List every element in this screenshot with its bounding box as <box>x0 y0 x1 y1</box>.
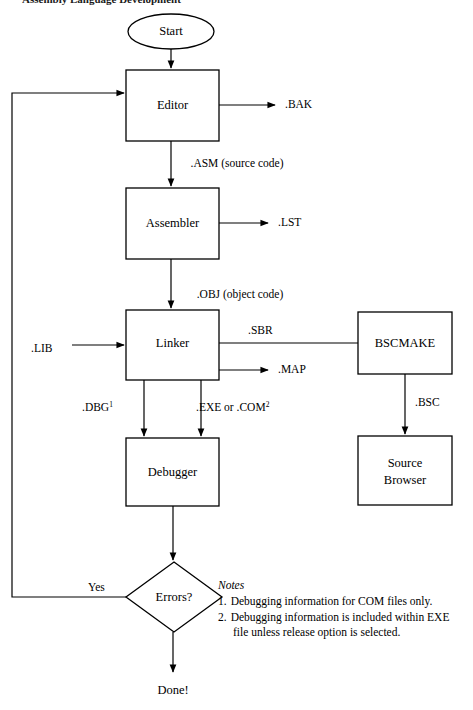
label-dbg: .DBG1 <box>82 400 113 413</box>
label-exe-com-superscript: 2 <box>266 400 270 409</box>
notes-item-1-line-1: Debugging information for COM files only… <box>231 595 433 608</box>
label-exe-com: .EXE or .COM2 <box>196 400 270 413</box>
start-label: Start <box>159 24 183 38</box>
notes-item-2-number: 2. <box>218 611 227 623</box>
done-label: Done! <box>157 683 188 697</box>
node-source-browser[interactable]: Source Browser <box>358 436 452 505</box>
node-errors-decision[interactable]: Errors? <box>126 562 222 632</box>
label-dbg-text: .DBG <box>82 401 109 413</box>
source-browser-label-line-1: Source <box>388 456 423 470</box>
label-dbg-superscript: 1 <box>109 400 113 409</box>
notes-item-2: 2.Debugging information is included with… <box>218 611 449 624</box>
label-bak: .BAK <box>285 98 313 110</box>
flowchart-page: Assembly Language Development <box>0 0 473 710</box>
source-browser-label-line-2: Browser <box>384 473 427 487</box>
notes-item-2-line-1: Debugging information is included within… <box>231 611 450 624</box>
node-editor[interactable]: Editor <box>126 70 219 141</box>
label-sbr: .SBR <box>248 324 273 336</box>
notes-heading: Notes <box>217 579 245 591</box>
label-asm: .ASM (source code) <box>191 157 284 170</box>
assembler-label: Assembler <box>146 216 200 230</box>
label-lib: .LIB <box>31 342 53 354</box>
notes-item-2-line-2: file unless release option is selected. <box>233 626 400 639</box>
node-linker[interactable]: Linker <box>126 310 219 380</box>
label-exe-com-text: .EXE or .COM <box>196 401 266 413</box>
label-obj: .OBJ (object code) <box>197 288 284 301</box>
node-start[interactable]: Start <box>128 14 214 49</box>
debugger-label: Debugger <box>148 465 198 479</box>
editor-label: Editor <box>157 98 189 112</box>
notes-item-1-number: 1. <box>218 595 227 607</box>
label-lst: .LST <box>278 216 301 228</box>
bscmake-label: BSCMAKE <box>375 336 436 350</box>
node-debugger[interactable]: Debugger <box>126 438 219 506</box>
label-yes: Yes <box>88 581 105 593</box>
notes-item-1: 1.Debugging information for COM files on… <box>218 595 433 608</box>
source-browser-box-shape <box>358 436 452 505</box>
notes-block: Notes 1.Debugging information for COM fi… <box>217 579 449 639</box>
errors-label: Errors? <box>156 590 193 604</box>
flowchart-canvas: Start Editor Assembler Linker BSCMAKE De <box>0 0 473 710</box>
linker-label: Linker <box>156 336 190 350</box>
node-assembler[interactable]: Assembler <box>126 188 219 259</box>
label-map: .MAP <box>278 363 306 375</box>
node-bscmake[interactable]: BSCMAKE <box>358 312 452 374</box>
label-bsc: .BSC <box>415 396 440 408</box>
